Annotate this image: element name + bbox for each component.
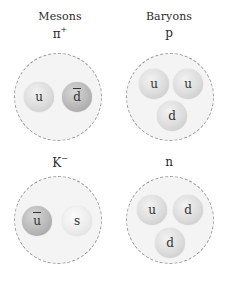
mesons-heading: Mesons bbox=[38, 10, 81, 23]
pi-plus-symbol: π bbox=[53, 27, 61, 41]
k-minus-antiquark-u: u bbox=[22, 206, 52, 236]
neutron-quark-d2: d bbox=[155, 228, 185, 258]
pi-plus-label: π+ bbox=[53, 26, 68, 41]
k-minus-quark-s: s bbox=[62, 206, 92, 236]
proton-quark-u2: u bbox=[173, 69, 203, 99]
quark-label: d bbox=[166, 237, 174, 249]
proton-label: p bbox=[165, 26, 173, 40]
neutron-quark-d1: d bbox=[173, 195, 203, 225]
quark-label: d bbox=[168, 110, 176, 122]
quark-label: d bbox=[184, 204, 192, 216]
antiquark-label: u bbox=[33, 215, 41, 227]
quark-label: s bbox=[74, 215, 80, 227]
pi-plus-quark-u: u bbox=[24, 82, 54, 112]
proton-quark-u1: u bbox=[139, 69, 169, 99]
k-minus-label: K− bbox=[52, 155, 68, 170]
quark-label: u bbox=[148, 204, 156, 216]
neutron-quark-u: u bbox=[137, 195, 167, 225]
pi-plus-antiquark-d: d bbox=[62, 82, 92, 112]
baryons-heading: Baryons bbox=[146, 10, 192, 23]
neutron-symbol: n bbox=[165, 155, 173, 169]
quark-label: u bbox=[184, 78, 192, 90]
quark-label: u bbox=[150, 78, 158, 90]
k-minus-charge: − bbox=[61, 154, 68, 163]
neutron-label: n bbox=[165, 155, 173, 169]
proton-quark-d: d bbox=[157, 101, 187, 131]
quark-label: u bbox=[35, 91, 43, 103]
pi-plus-charge: + bbox=[61, 25, 68, 34]
antiquark-label: d bbox=[73, 91, 81, 103]
k-minus-symbol: K bbox=[52, 156, 61, 170]
proton-symbol: p bbox=[165, 26, 173, 40]
